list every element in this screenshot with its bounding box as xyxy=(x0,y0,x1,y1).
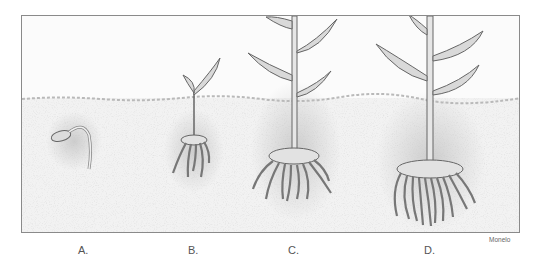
stage-label-c: C. xyxy=(288,244,299,256)
artist-credit: Monelo xyxy=(489,236,510,243)
growth-stages-illustration xyxy=(22,16,520,233)
stage-label-a: A. xyxy=(78,244,88,256)
illustration-frame xyxy=(21,15,520,233)
stage-label-d: D. xyxy=(424,244,435,256)
stage-label-b: B. xyxy=(188,244,198,256)
